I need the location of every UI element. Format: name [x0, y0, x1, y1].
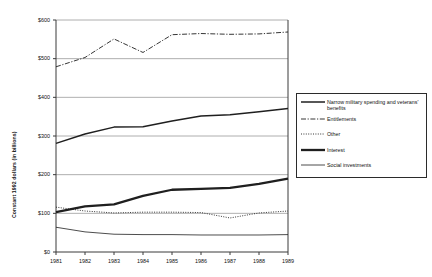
- legend-line-swatch: [301, 161, 325, 169]
- series-line: [56, 207, 288, 218]
- series-line: [56, 32, 288, 67]
- series-line: [56, 179, 288, 213]
- legend-label: Narrow military spending and veterans' b…: [327, 98, 425, 111]
- legend: Narrow military spending and veterans' b…: [296, 93, 427, 178]
- legend-label: Interest: [327, 146, 345, 153]
- legend-line-swatch: [301, 115, 325, 123]
- legend-line-swatch: [301, 98, 325, 106]
- legend-item[interactable]: Interest: [301, 146, 425, 154]
- legend-label: Entitlements: [327, 115, 356, 122]
- legend-item[interactable]: Narrow military spending and veterans' b…: [301, 98, 425, 111]
- line-chart: Constant 1992 dollars (in billions) $0$1…: [0, 0, 432, 277]
- series-line: [56, 227, 288, 235]
- series-line: [56, 109, 288, 144]
- legend-line-swatch: [301, 146, 325, 154]
- legend-item[interactable]: Social investments: [301, 161, 425, 169]
- legend-line-swatch: [301, 130, 325, 138]
- legend-label: Social investments: [327, 161, 371, 168]
- legend-item[interactable]: Other: [301, 130, 425, 138]
- legend-item[interactable]: Entitlements: [301, 115, 425, 123]
- legend-label: Other: [327, 130, 340, 137]
